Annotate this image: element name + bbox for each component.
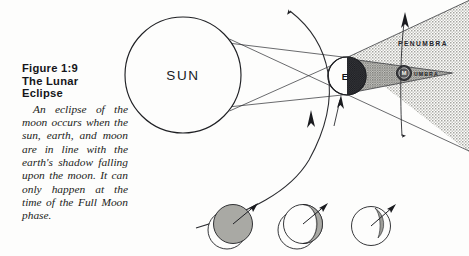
phase-circle-half [278, 203, 328, 249]
earth-label: E [342, 72, 348, 82]
penumbra-label: PENUMBRA [398, 40, 448, 47]
sun-body: SUN [125, 17, 241, 133]
phase-circle-full [208, 203, 258, 249]
figure-caption-text: An eclipse of the moon occurs when the s… [22, 103, 128, 223]
moon-body: M [396, 65, 411, 80]
earth-motion-arrow [334, 95, 344, 126]
figure-title: Figure 1:9 The Lunar Eclipse [22, 62, 128, 100]
sun-label: SUN [166, 68, 199, 83]
orbit-direction-arrow-lower [307, 110, 315, 128]
figure-page: SUN E M PENUMBRA UMBRA [0, 0, 469, 256]
phase-circle-new [352, 204, 397, 246]
node-line-arrow [401, 12, 409, 28]
figure-caption-block: Figure 1:9 The Lunar Eclipse An eclipse … [22, 62, 128, 222]
moon-label: M [402, 70, 407, 76]
umbra-label: UMBRA [414, 71, 439, 77]
